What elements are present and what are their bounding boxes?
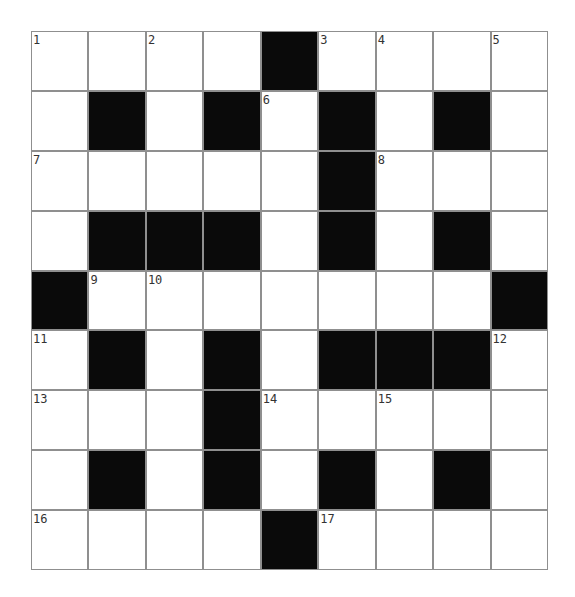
crossword-cell[interactable] <box>492 391 547 449</box>
crossword-cell[interactable] <box>434 391 489 449</box>
crossword-cell[interactable] <box>377 212 432 270</box>
crossword-cell[interactable]: 13 <box>32 391 87 449</box>
crossword-cell[interactable] <box>32 451 87 509</box>
clue-number: 14 <box>263 393 277 405</box>
crossword-cell[interactable]: 8 <box>377 152 432 210</box>
crossword-grid: 1234567891011121314151617 <box>31 31 548 570</box>
crossword-cell[interactable] <box>492 451 547 509</box>
crossword-cell[interactable] <box>32 212 87 270</box>
clue-number: 8 <box>378 154 385 166</box>
clue-number: 9 <box>90 274 97 286</box>
crossword-cell[interactable] <box>204 272 259 330</box>
crossword-cell[interactable] <box>262 152 317 210</box>
black-square <box>89 92 144 150</box>
crossword-cell[interactable] <box>89 511 144 569</box>
crossword-cell[interactable]: 9 <box>89 272 144 330</box>
crossword-cell[interactable] <box>492 92 547 150</box>
black-square <box>204 212 259 270</box>
clue-number: 5 <box>493 34 500 46</box>
crossword-cell[interactable] <box>147 511 202 569</box>
black-square <box>147 212 202 270</box>
crossword-cell[interactable] <box>492 152 547 210</box>
crossword-cell[interactable] <box>204 511 259 569</box>
black-square <box>204 391 259 449</box>
crossword-cell[interactable]: 1 <box>32 32 87 90</box>
crossword-cell[interactable]: 12 <box>492 331 547 389</box>
black-square <box>319 451 374 509</box>
black-square <box>434 212 489 270</box>
crossword-cell[interactable] <box>434 32 489 90</box>
crossword-cell[interactable] <box>262 272 317 330</box>
crossword-cell[interactable] <box>262 331 317 389</box>
crossword-cell[interactable]: 15 <box>377 391 432 449</box>
crossword-cell[interactable]: 4 <box>377 32 432 90</box>
crossword-cell[interactable] <box>377 272 432 330</box>
crossword-cell[interactable]: 6 <box>262 92 317 150</box>
crossword-cell[interactable] <box>492 212 547 270</box>
black-square <box>89 212 144 270</box>
crossword-cell[interactable] <box>434 272 489 330</box>
crossword-cell[interactable] <box>262 212 317 270</box>
black-square <box>434 451 489 509</box>
black-square <box>319 331 374 389</box>
black-square <box>434 92 489 150</box>
crossword-cell[interactable]: 16 <box>32 511 87 569</box>
black-square <box>492 272 547 330</box>
clue-number: 2 <box>148 34 155 46</box>
black-square <box>204 451 259 509</box>
black-square <box>89 451 144 509</box>
black-square <box>204 331 259 389</box>
crossword-cell[interactable] <box>204 152 259 210</box>
black-square <box>319 152 374 210</box>
crossword-cell[interactable]: 7 <box>32 152 87 210</box>
black-square <box>377 331 432 389</box>
clue-number: 1 <box>33 34 40 46</box>
black-square <box>319 212 374 270</box>
crossword-cell[interactable]: 3 <box>319 32 374 90</box>
crossword-cell[interactable] <box>89 32 144 90</box>
crossword-cell[interactable] <box>89 152 144 210</box>
black-square <box>32 272 87 330</box>
crossword-cell[interactable] <box>147 391 202 449</box>
crossword-cell[interactable] <box>377 511 432 569</box>
clue-number: 10 <box>148 274 162 286</box>
crossword-cell[interactable] <box>319 391 374 449</box>
crossword-cell[interactable] <box>32 92 87 150</box>
clue-number: 3 <box>320 34 327 46</box>
crossword-cell[interactable] <box>147 152 202 210</box>
clue-number: 13 <box>33 393 47 405</box>
crossword-cell[interactable] <box>377 92 432 150</box>
crossword-cell[interactable] <box>319 272 374 330</box>
black-square <box>434 331 489 389</box>
clue-number: 16 <box>33 513 47 525</box>
clue-number: 11 <box>33 333 47 345</box>
crossword-cell[interactable]: 11 <box>32 331 87 389</box>
crossword-cell[interactable] <box>377 451 432 509</box>
crossword-cell[interactable]: 2 <box>147 32 202 90</box>
crossword-cell[interactable] <box>204 32 259 90</box>
clue-number: 12 <box>493 333 507 345</box>
crossword-cell[interactable]: 5 <box>492 32 547 90</box>
clue-number: 15 <box>378 393 392 405</box>
crossword-cell[interactable] <box>147 451 202 509</box>
crossword-cell[interactable] <box>147 92 202 150</box>
black-square <box>319 92 374 150</box>
clue-number: 4 <box>378 34 385 46</box>
black-square <box>89 331 144 389</box>
black-square <box>262 32 317 90</box>
clue-number: 6 <box>263 94 270 106</box>
black-square <box>204 92 259 150</box>
crossword-cell[interactable] <box>434 152 489 210</box>
crossword-cell[interactable] <box>262 451 317 509</box>
clue-number: 7 <box>33 154 40 166</box>
crossword-cell[interactable]: 10 <box>147 272 202 330</box>
crossword-cell[interactable] <box>492 511 547 569</box>
black-square <box>262 511 317 569</box>
crossword-cell[interactable] <box>434 511 489 569</box>
crossword-cell[interactable] <box>147 331 202 389</box>
crossword-cell[interactable] <box>89 391 144 449</box>
clue-number: 17 <box>320 513 334 525</box>
crossword-cell[interactable]: 17 <box>319 511 374 569</box>
crossword-cell[interactable]: 14 <box>262 391 317 449</box>
